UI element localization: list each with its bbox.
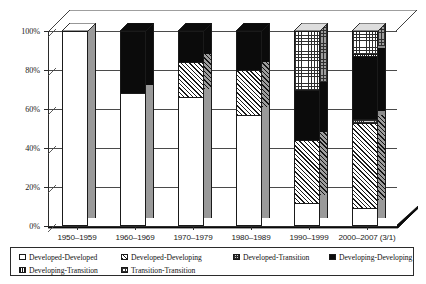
x-axis-tick <box>135 226 136 230</box>
bar-column <box>178 31 204 226</box>
bar-segment-side <box>378 200 386 218</box>
bar-segment <box>352 119 378 123</box>
axis-depth-leader <box>48 101 56 109</box>
gridline <box>49 31 397 32</box>
bar-segment <box>352 208 378 226</box>
axis-depth-leader <box>48 23 56 31</box>
legend-label: Developing-Transition <box>29 266 98 275</box>
bar-top-cap <box>294 23 328 31</box>
bar-segment-side <box>378 111 386 115</box>
bar-column <box>62 31 88 226</box>
legend-swatch-icon <box>329 254 336 261</box>
legend-item[interactable]: Developed-Transition <box>233 253 309 262</box>
bar-segment-side <box>320 82 328 133</box>
bar-segment <box>178 31 204 62</box>
chart-figure: 0%20%40%60%80%100% 1950–19591960–1969197… <box>0 0 426 284</box>
x-axis-tick <box>309 226 310 230</box>
bar-segment-side <box>378 48 386 110</box>
gridline <box>49 70 397 71</box>
bar-column <box>294 31 320 226</box>
legend-swatch-icon <box>121 267 128 274</box>
bar-top-cap <box>236 23 270 31</box>
bar-segment <box>236 115 262 226</box>
bar-top-cap <box>178 23 212 31</box>
legend-label: Developed-Transition <box>243 253 309 262</box>
chart-legend: Developed-DevelopedDeveloped-DevelopingD… <box>10 247 414 276</box>
bar-segment <box>120 93 146 226</box>
legend-item[interactable]: Developed-Developed <box>19 253 97 262</box>
legend-swatch-icon <box>19 254 26 261</box>
bar-column <box>120 31 146 226</box>
legend-item[interactable]: Developed-Developing <box>121 253 202 262</box>
bar-segment <box>178 97 204 226</box>
bar-column <box>236 31 262 226</box>
bar-top-cap <box>120 23 154 31</box>
legend-label: Developed-Developing <box>131 253 202 262</box>
y-axis-tick-label: 60% <box>10 105 40 114</box>
plot-area <box>48 31 397 227</box>
gridline <box>49 109 397 110</box>
legend-label: Transition-Transition <box>131 266 195 275</box>
bar-segment-side <box>262 62 270 107</box>
bar-segment <box>294 90 320 141</box>
legend-swatch-icon <box>19 267 26 274</box>
bar-column <box>352 31 378 226</box>
gridline <box>49 187 397 188</box>
legend-swatch-icon <box>233 254 240 261</box>
legend-item[interactable]: Developing-Transition <box>19 266 98 275</box>
chart-right-plane <box>396 10 418 226</box>
bar-segment-side <box>204 54 212 89</box>
bar-segment <box>62 31 88 226</box>
bar-segment-side <box>320 23 328 82</box>
legend-item[interactable]: Transition-Transition <box>121 266 195 275</box>
legend-row-1: Developed-DevelopedDeveloped-DevelopingD… <box>11 250 413 264</box>
bar-segment <box>294 31 320 90</box>
bar-segment-side <box>320 132 328 194</box>
x-axis-tick-label: 1960–1969 <box>115 233 154 242</box>
axis-depth-leader <box>48 62 56 70</box>
y-axis-tick-label: 40% <box>10 144 40 153</box>
y-axis-tick-label: 20% <box>10 183 40 192</box>
bar-segment <box>120 31 146 93</box>
bar-segment <box>352 31 378 54</box>
gridline <box>49 148 397 149</box>
x-axis-tick <box>367 226 368 230</box>
bar-top-cap <box>352 23 386 31</box>
y-axis-tick-label: 100% <box>10 27 40 36</box>
legend-swatch-icon <box>121 254 128 261</box>
bar-segment-side <box>88 23 96 218</box>
bar-segment <box>352 56 378 118</box>
bar-segment <box>178 62 204 97</box>
axis-depth-leader <box>48 218 56 226</box>
x-axis-tick <box>251 226 252 230</box>
bar-segment-side <box>146 23 154 85</box>
bar-segment <box>294 140 320 202</box>
bar-segment <box>294 203 320 226</box>
legend-item[interactable]: Developing-Developing <box>329 253 412 262</box>
x-axis-tick-label: 1990–1999 <box>289 233 328 242</box>
x-axis-tick <box>77 226 78 230</box>
bar-segment <box>352 123 378 209</box>
axis-depth-leader <box>48 140 56 148</box>
bar-segment-side <box>378 115 386 201</box>
legend-label: Developed-Developed <box>29 253 97 262</box>
bar-segment <box>236 70 262 115</box>
axis-depth-leader <box>48 179 56 187</box>
bar-segment <box>236 31 262 70</box>
bar-segment-side <box>262 107 270 218</box>
x-axis-tick-label: 1950–1959 <box>57 233 96 242</box>
bar-segment-side <box>378 46 386 48</box>
x-axis-tick-label: 2000–2007 (3/1) <box>338 233 395 242</box>
x-axis-tick <box>193 226 194 230</box>
x-axis-tick-label: 1970–1979 <box>173 233 212 242</box>
y-axis-tick-label: 0% <box>10 222 40 231</box>
bar-top-cap <box>62 23 96 31</box>
x-axis-tick-label: 1980–1989 <box>231 233 270 242</box>
bar-segment-side <box>204 89 212 218</box>
legend-label: Developing-Developing <box>339 253 412 262</box>
bar-segment-side <box>146 85 154 218</box>
bar-segment <box>352 54 378 56</box>
bar-segment-side <box>320 195 328 218</box>
y-axis-tick-label: 80% <box>10 66 40 75</box>
legend-row-2: Developing-TransitionTransition-Transiti… <box>11 263 413 277</box>
